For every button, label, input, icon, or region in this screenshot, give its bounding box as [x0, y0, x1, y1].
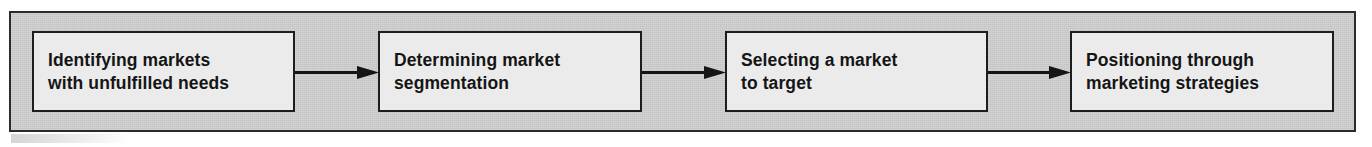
process-step-1-label: Identifying markets with unfulfilled nee…	[34, 49, 237, 95]
process-step-4-label: Positioning through marketing strategies	[1072, 49, 1267, 95]
arrow-step1-to-step2	[295, 64, 379, 81]
process-step-2: Determining market segmentation	[378, 31, 642, 112]
process-step-4: Positioning through marketing strategies	[1070, 31, 1334, 112]
process-step-3: Selecting a market to target	[725, 31, 988, 112]
process-step-3-label: Selecting a market to target	[727, 49, 905, 95]
process-flow-figure: Identifying markets with unfulfilled nee…	[0, 0, 1372, 147]
process-step-2-label: Determining market segmentation	[380, 49, 568, 95]
process-step-1: Identifying markets with unfulfilled nee…	[32, 31, 295, 112]
scan-artifact	[11, 134, 129, 143]
arrow-step3-to-step4	[988, 64, 1071, 81]
arrow-step2-to-step3	[642, 64, 726, 81]
